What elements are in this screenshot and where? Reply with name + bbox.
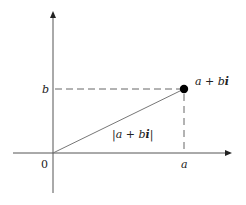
point-label: a + bi xyxy=(195,75,229,88)
modulus-label-b: b xyxy=(139,128,146,141)
modulus-label-plus: + xyxy=(122,128,138,141)
background xyxy=(0,0,246,205)
y-tick-label-b: b xyxy=(42,83,49,96)
complex-plane-diagram: 0 a b a + bi |a + bi| xyxy=(0,0,246,205)
origin-label: 0 xyxy=(41,158,48,171)
modulus-label: |a + bi| xyxy=(112,128,153,142)
x-tick-label-a: a xyxy=(181,158,188,171)
point-label-b: b xyxy=(218,75,225,88)
modulus-bar-right: | xyxy=(150,128,154,142)
point-label-plus: + xyxy=(202,75,218,88)
complex-point-marker xyxy=(180,85,188,93)
point-label-i: i xyxy=(225,75,229,88)
